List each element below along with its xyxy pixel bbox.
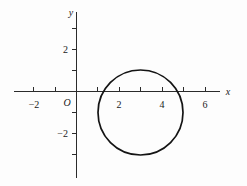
y-tick-label-2: 2 — [63, 44, 68, 55]
x-tick-label-4: 4 — [160, 99, 165, 110]
plot-circle — [98, 70, 183, 155]
x-tick-label-2: 2 — [117, 99, 122, 110]
origin-label: O — [63, 97, 70, 108]
figure-canvas: −2 2 4 6 2 −2 O x y — [0, 0, 247, 186]
x-tick-label-6: 6 — [203, 99, 208, 110]
x-axis-label: x — [225, 86, 231, 97]
x-tick-label--2: −2 — [29, 99, 40, 110]
y-axis-label: y — [68, 7, 74, 18]
coordinate-plot: −2 2 4 6 2 −2 O x y — [0, 0, 247, 186]
y-tick-label--2: −2 — [57, 128, 68, 139]
